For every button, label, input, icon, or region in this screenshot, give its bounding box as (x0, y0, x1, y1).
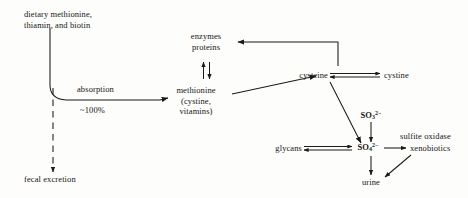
node-methionine: methionine (cystine, vitamins) (176, 85, 215, 117)
node-glycans: glycans (275, 143, 302, 154)
sulfate-superscript: 2− (372, 142, 378, 148)
node-methionine-line3: vitamins) (176, 106, 215, 117)
edge-label-absorption-percent: ~100% (80, 105, 105, 115)
sulfite-base: SO (361, 110, 372, 120)
edge-cysteine-to-sulfate (330, 82, 361, 143)
node-methionine-line2: (cystine, (176, 96, 215, 107)
node-dietary-intake-line2: thiamin, and biotin (24, 20, 92, 31)
pathway-diagram: dietary methionine, thiamin, and biotin … (0, 0, 468, 198)
node-sulfate-formula: SO42− (358, 142, 379, 152)
node-enzymes-label: enzymes (191, 31, 221, 42)
node-cystine: cystine (384, 70, 409, 81)
sulfate-base: SO (358, 142, 369, 152)
sulfite-superscript: 2− (375, 110, 381, 116)
node-dietary-intake-line1: dietary methionine, (24, 9, 92, 20)
node-sulfite-formula: SO32− (361, 110, 382, 120)
node-cysteine: cysteine (299, 70, 328, 81)
node-dietary-intake: dietary methionine, thiamin, and biotin (24, 9, 92, 30)
node-xenobiotics: xenobiotics (410, 143, 450, 154)
edge-label-sulfite-oxidase: sulfite oxidase (400, 131, 451, 141)
edge-label-absorption: absorption (77, 84, 114, 94)
node-enzymes-proteins: enzymes proteins (191, 31, 221, 52)
node-fecal-excretion: fecal excretion (24, 174, 76, 185)
node-methionine-line1: methionine (176, 85, 215, 96)
edge-cysteine-to-enzymes (238, 42, 338, 66)
node-proteins-label: proteins (191, 42, 221, 53)
edge-xenobiotics-to-urine (385, 155, 411, 177)
node-urine: urine (362, 177, 380, 188)
